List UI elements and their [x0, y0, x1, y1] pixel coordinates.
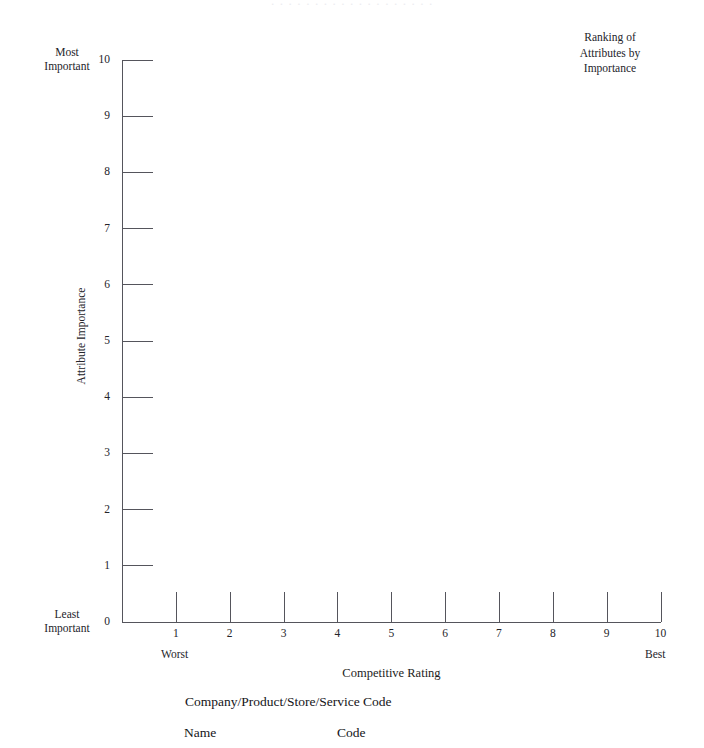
y-axis-tick-label-0: 0 [84, 616, 110, 628]
x-axis-max-label: Best [645, 648, 665, 660]
chart-title-line-1: Ranking of [532, 30, 688, 46]
y-axis-tick-label-1: 1 [84, 560, 110, 572]
x-axis-tick-4 [337, 592, 338, 622]
x-axis-line [122, 622, 661, 623]
y-axis-tick-label-6: 6 [84, 279, 110, 291]
x-axis-tick-label-3: 3 [272, 628, 296, 640]
x-axis-title: Competitive Rating [122, 666, 661, 681]
y-axis-tick-3 [123, 453, 153, 454]
y-axis-tick-1 [123, 565, 153, 566]
y-axis-tick-label-9: 9 [84, 110, 110, 122]
y-axis-tick-label-8: 8 [84, 166, 110, 178]
scan-artifact-strip: · · · · · · · · · · · · · · · · · · · [0, 0, 704, 14]
x-axis-tick-label-6: 6 [433, 628, 457, 640]
y-axis-tick-label-3: 3 [84, 447, 110, 459]
code-key-column-name: Name [184, 725, 216, 741]
y-axis-tick-8 [123, 172, 153, 173]
x-axis-tick-label-9: 9 [595, 628, 619, 640]
y-axis-tick-7 [123, 228, 153, 229]
y-axis-tick-10 [123, 60, 153, 61]
x-axis-min-label: Worst [161, 648, 188, 660]
x-axis-tick-7 [499, 592, 500, 622]
x-axis-tick-8 [553, 592, 554, 622]
x-axis-tick-label-4: 4 [325, 628, 349, 640]
y-axis-tick-label-4: 4 [84, 391, 110, 403]
code-key-heading: Company/Product/Store/Service Code [185, 694, 392, 710]
y-axis-tick-label-2: 2 [84, 504, 110, 516]
y-axis-tick-label-7: 7 [84, 223, 110, 235]
x-axis-tick-label-7: 7 [487, 628, 511, 640]
chart-title-line-3: Importance [532, 61, 688, 77]
x-axis-tick-label-10: 10 [649, 628, 673, 640]
chart-title-line-2: Attributes by [532, 46, 688, 62]
x-axis-tick-label-2: 2 [218, 628, 242, 640]
y-axis-tick-5 [123, 341, 153, 342]
x-axis-tick-3 [284, 592, 285, 622]
competitive-rating-worksheet: · · · · · · · · · · · · · · · · · · · Ra… [0, 0, 704, 748]
y-axis-tick-2 [123, 509, 153, 510]
code-key-column-code: Code [337, 725, 366, 741]
y-axis-tick-label-10: 10 [84, 54, 110, 66]
x-axis-tick-label-1: 1 [164, 628, 188, 640]
x-axis-tick-9 [607, 592, 608, 622]
y-axis-tick-label-5: 5 [84, 335, 110, 347]
y-axis-tick-6 [123, 284, 153, 285]
y-axis-tick-9 [123, 116, 153, 117]
x-axis-tick-1 [176, 592, 177, 622]
y-axis-tick-4 [123, 397, 153, 398]
x-axis-tick-label-5: 5 [379, 628, 403, 640]
chart-title-block: Ranking of Attributes by Importance [532, 30, 688, 77]
x-axis-tick-5 [391, 592, 392, 622]
x-axis-tick-label-8: 8 [541, 628, 565, 640]
x-axis-tick-2 [230, 592, 231, 622]
x-axis-tick-6 [445, 592, 446, 622]
x-axis-tick-10 [661, 592, 662, 622]
